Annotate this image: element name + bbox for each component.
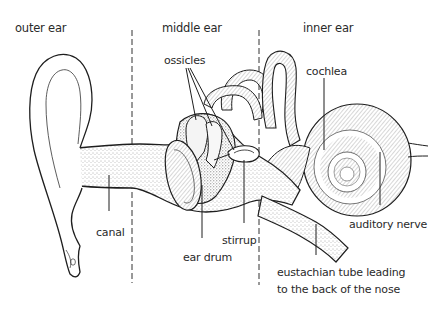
label-eustachian-line2: to the back of the nose (277, 283, 400, 296)
label-auditory-nerve: auditory nerve (349, 218, 427, 231)
cochlea-shape (303, 104, 411, 216)
label-stirrup: stirrup (222, 234, 257, 247)
label-ossicles: ossicles (164, 54, 205, 67)
label-eustachian-line1: eustachian tube leading (277, 266, 405, 279)
label-canal: canal (96, 226, 125, 239)
region-label-inner-ear: inner ear (303, 22, 353, 35)
label-ear-drum: ear drum (183, 251, 232, 264)
label-cochlea: cochlea (306, 65, 347, 78)
region-label-outer-ear: outer ear (15, 22, 66, 35)
region-label-middle-ear: middle ear (162, 22, 222, 35)
